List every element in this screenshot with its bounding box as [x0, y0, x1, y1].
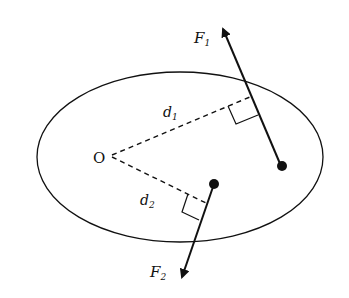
lever-arm-d1 — [112, 97, 250, 155]
application-point-f2 — [209, 179, 219, 189]
rigid-body-ellipse — [37, 72, 323, 242]
force-vector-f1 — [223, 29, 281, 166]
lever-arm-label-d1: d1 — [163, 104, 178, 122]
lever-arm-label-d2: d2 — [140, 192, 155, 210]
application-point-f1 — [277, 161, 287, 171]
pivot-label-o: O — [93, 149, 105, 167]
right-angle-marker-d1 — [228, 106, 258, 124]
torque-diagram: O F1 F2 d1 d2 — [0, 0, 349, 298]
force-label-f1: F1 — [193, 29, 210, 48]
lever-arm-d2 — [112, 157, 206, 203]
force-label-f2: F2 — [149, 263, 166, 282]
